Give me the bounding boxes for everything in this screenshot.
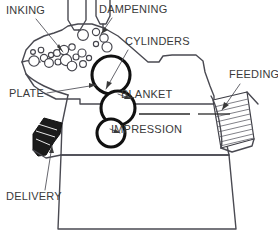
ink-roller [48, 52, 53, 57]
ink-roller [80, 61, 87, 68]
dampening-roller [100, 34, 108, 42]
label-inking: INKING [6, 4, 45, 16]
dampening-roller [102, 42, 112, 52]
ink-roller [29, 56, 39, 66]
press-schematic-svg: INKING DAMPENING CYLINDERS FEEDING PLATE… [0, 0, 278, 231]
ink-roller [45, 59, 54, 68]
label-delivery: DELIVERY [6, 190, 62, 202]
ink-roller [31, 50, 36, 55]
delivery-pile-group [33, 118, 62, 158]
ink-roller [78, 49, 86, 57]
dampening-roller [93, 41, 98, 46]
label-plate: PLATE [9, 87, 44, 99]
delivery-pile [33, 118, 62, 156]
feeding-pile-group [211, 92, 258, 152]
label-impression: IMPRESSION [111, 123, 182, 135]
press-base-frame [58, 155, 236, 229]
dampening-roller [78, 30, 89, 41]
label-dampening: DAMPENING [99, 3, 167, 15]
ink-roller [67, 61, 77, 71]
printing-press-diagram: INKING DAMPENING CYLINDERS FEEDING PLATE… [0, 0, 278, 231]
ink-roller [38, 47, 44, 53]
label-blanket: BLANKET [121, 88, 173, 100]
ink-roller [69, 44, 75, 50]
label-cylinders: CYLINDERS [125, 35, 190, 47]
ink-roller [86, 55, 91, 60]
dampening-roller [92, 28, 99, 35]
label-feeding: FEEDING [229, 68, 278, 80]
